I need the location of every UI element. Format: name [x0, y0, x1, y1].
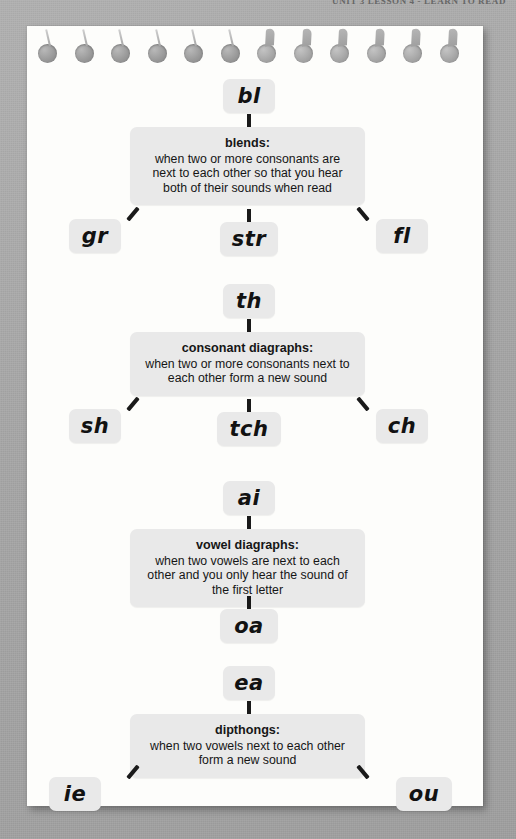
- definition-body: when two or more consonants are next to …: [142, 152, 353, 196]
- definition-body: when two vowels are next to each other a…: [142, 554, 353, 598]
- definition-title: vowel diagraphs:: [142, 538, 353, 553]
- phonics-diagram: bl blends: when two or more consonants a…: [27, 26, 483, 806]
- node-left-ie[interactable]: ie: [49, 777, 101, 811]
- definition-body: when two or more consonants next to each…: [142, 357, 353, 386]
- node-top-ai[interactable]: ai: [223, 481, 275, 515]
- notepad-page: bl blends: when two or more consonants a…: [27, 26, 483, 806]
- definition-title: consonant diagraphs:: [142, 341, 353, 356]
- connector-center-vertical: [247, 596, 251, 610]
- node-left-sh[interactable]: sh: [69, 409, 121, 443]
- connector-center-vertical: [247, 399, 251, 413]
- node-center-oa[interactable]: oa: [220, 609, 278, 643]
- node-definition-dipthongs[interactable]: dipthongs: when two vowels next to each …: [130, 714, 365, 778]
- connector-top-vertical: [247, 701, 251, 715]
- node-right-ou[interactable]: ou: [396, 777, 452, 811]
- connector-top-vertical: [247, 114, 251, 128]
- definition-title: dipthongs:: [142, 723, 353, 738]
- node-right-fl[interactable]: fl: [376, 219, 428, 253]
- connector-right-diagonal: [356, 207, 369, 222]
- connector-top-vertical: [247, 319, 251, 333]
- node-top-bl[interactable]: bl: [223, 79, 275, 113]
- connector-top-vertical: [247, 516, 251, 530]
- definition-title: blends:: [142, 136, 353, 151]
- connector-center-vertical: [247, 209, 251, 223]
- connector-left-diagonal: [126, 397, 139, 412]
- node-right-ch[interactable]: ch: [376, 409, 428, 443]
- node-top-th[interactable]: th: [223, 284, 275, 318]
- clipped-header-text: UNIT 3 LESSON 4 - LEARN TO READ: [332, 0, 506, 5]
- node-left-gr[interactable]: gr: [69, 219, 121, 253]
- node-definition-consonant-diagraphs[interactable]: consonant diagraphs: when two or more co…: [130, 332, 365, 396]
- connector-right-diagonal: [356, 397, 369, 412]
- node-top-ea[interactable]: ea: [223, 666, 275, 700]
- node-definition-blends[interactable]: blends: when two or more consonants are …: [130, 127, 365, 205]
- node-center-tch[interactable]: tch: [217, 412, 281, 446]
- definition-body: when two vowels next to each other form …: [142, 739, 353, 768]
- connector-left-diagonal: [126, 207, 139, 222]
- node-center-str[interactable]: str: [220, 222, 278, 256]
